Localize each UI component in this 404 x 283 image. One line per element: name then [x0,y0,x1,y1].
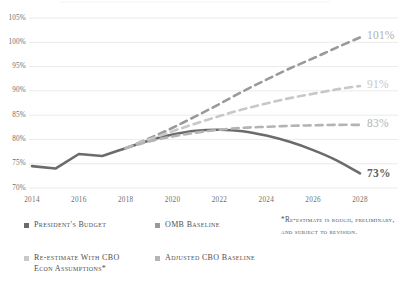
x-axis-tick-label: 2022 [199,196,239,204]
gridlines [29,2,398,188]
legend-swatch-icon [155,256,160,261]
plot-area: 105%100%95%90%85%80%75%70% 2014201620182… [0,0,404,212]
legend-item-label: OMB Baseline [165,220,220,231]
x-axis-tick-label: 2026 [293,196,333,204]
series-end-label: 83% [367,117,389,129]
legend-item-label: President's Budget [34,220,106,231]
y-axis-tick-label: 70% [0,184,26,192]
x-axis-tick-label: 2018 [106,196,146,204]
legend-swatch-icon [24,256,29,261]
legend-item[interactable]: President's Budget [24,220,106,231]
legend-swatch-icon [24,223,29,228]
legend-item-label: Adjusted CBO Baseline [165,253,255,264]
legend-item-label: Re-estimate With CBO Econ Assumptions* [34,253,120,274]
chart-svg [0,0,404,212]
legend-item[interactable]: Adjusted CBO Baseline [155,253,255,264]
series-end-label: 101% [367,29,395,41]
x-axis-tick-label: 2028 [340,196,380,204]
chart-container: 105%100%95%90%85%80%75%70% 2014201620182… [0,0,404,283]
legend-swatch-icon [155,223,160,228]
x-axis-tick-label: 2016 [59,196,99,204]
series-lines [32,37,360,173]
y-axis-tick-label: 105% [0,14,26,22]
series-end-label: 91% [367,78,389,90]
y-axis-tick-label: 90% [0,86,26,94]
y-axis-tick-label: 80% [0,135,26,143]
legend-item[interactable]: Re-estimate With CBO Econ Assumptions* [24,253,120,274]
chart-legend: President's BudgetOMB BaselineRe-estimat… [0,214,404,283]
y-axis-tick-label: 85% [0,111,26,119]
x-axis-tick-label: 2014 [12,196,52,204]
footnote: *Re-estimate is rough, preliminary, and … [281,215,403,238]
y-axis-tick-label: 75% [0,159,26,167]
x-axis-tick-label: 2020 [153,196,193,204]
y-axis-tick-label: 100% [0,38,26,46]
legend-item[interactable]: OMB Baseline [155,220,220,231]
series-end-label: 73% [367,167,391,179]
y-axis-tick-label: 95% [0,62,26,70]
x-axis-tick-label: 2024 [246,196,286,204]
series-line [32,130,360,174]
